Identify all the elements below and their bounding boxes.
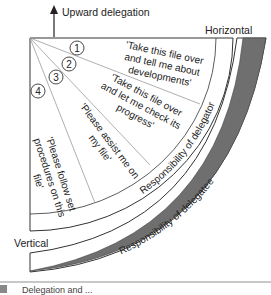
vertical-label: Vertical (14, 237, 48, 249)
level-4-badge: 4 (31, 84, 45, 98)
svg-text:4: 4 (35, 86, 41, 97)
caption-marker (0, 285, 7, 293)
upward-delegation-label: Upward delegation (62, 6, 150, 18)
svg-text:2: 2 (66, 59, 72, 70)
level-3-badge: 3 (49, 70, 63, 84)
horizontal-label: Horizontal (205, 24, 252, 36)
figure-caption-bar: Delegation and ... (0, 281, 271, 293)
upward-arrow-head (50, 5, 58, 14)
figure-caption: Delegation and ... (22, 285, 93, 295)
svg-text:3: 3 (53, 72, 59, 83)
svg-text:1: 1 (74, 43, 80, 54)
level-2-badge: 2 (62, 57, 76, 71)
level-1-badge: 1 (70, 41, 84, 55)
